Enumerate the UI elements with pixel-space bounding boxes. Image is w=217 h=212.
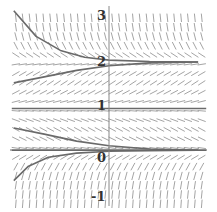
slope-segment (119, 190, 120, 198)
slope-segment (49, 172, 51, 180)
slope-segment (200, 42, 204, 50)
slope-segment (33, 81, 40, 86)
slope-segment (36, 200, 37, 208)
slope-segment (12, 119, 20, 122)
slope-segment (153, 190, 154, 198)
slope-segment (57, 14, 58, 22)
slope-segment (22, 23, 23, 31)
slope-segment (53, 119, 61, 122)
slope-segment (14, 42, 18, 50)
slope-segment (74, 155, 81, 159)
slope-segment (33, 155, 40, 159)
slope-segment (166, 172, 168, 180)
slope-segment (84, 190, 85, 198)
slope-segment (74, 81, 81, 86)
slope-segment (116, 53, 123, 58)
slope-segment (198, 155, 205, 159)
slope-segment (19, 137, 27, 141)
slope-segment (14, 163, 18, 170)
slope-segment (74, 127, 81, 131)
slope-segment (136, 81, 143, 86)
slope-segment (91, 14, 92, 22)
slope-segment (153, 200, 154, 208)
slope-segment (50, 14, 51, 22)
slope-segment (146, 32, 148, 40)
slope-segment (88, 127, 95, 131)
slope-segment (88, 53, 95, 58)
slope-segment (91, 32, 93, 40)
slope-segment (181, 14, 182, 22)
slope-segment (26, 90, 33, 94)
slope-segment (136, 127, 143, 131)
slope-segment (126, 14, 127, 22)
slope-segment (166, 32, 168, 40)
slope-segment (67, 81, 74, 86)
slope-segment (139, 14, 140, 22)
slope-segment (174, 200, 175, 208)
slope-segment (198, 81, 205, 86)
slope-segment (125, 172, 127, 180)
slope-segment (160, 200, 161, 208)
slope-segment (126, 200, 127, 208)
slope-segment (132, 23, 133, 31)
slope-segment (157, 155, 164, 159)
slope-segment (112, 23, 113, 31)
slope-segment (36, 23, 37, 31)
slope-segment (146, 14, 147, 22)
slope-segment (198, 72, 205, 76)
slope-segment (77, 32, 79, 40)
slope-segment (116, 81, 123, 86)
slope-segment (50, 200, 51, 208)
slope-segment (21, 163, 25, 170)
slope-segment (29, 200, 30, 208)
slope-segment (167, 200, 168, 208)
slope-segment (146, 172, 148, 180)
slope-segment (125, 32, 127, 40)
slope-segment (184, 155, 191, 159)
slope-segment (179, 163, 183, 170)
slope-segment (88, 81, 95, 86)
slope-segment (177, 90, 184, 94)
slope-segment (201, 14, 202, 22)
slope-segment (26, 81, 33, 86)
slope-segment (118, 172, 120, 180)
slope-segment (69, 163, 73, 170)
slope-segment (97, 172, 99, 180)
slope-segment (129, 155, 136, 159)
slope-segment (191, 53, 198, 58)
slope-segment (63, 23, 64, 31)
slope-segment (194, 181, 195, 189)
slope-segment (67, 155, 74, 159)
slope-segment (90, 42, 94, 50)
slope-segment (35, 42, 39, 50)
slope-segment (171, 72, 178, 76)
slope-segment (133, 200, 134, 208)
slope-segment (84, 32, 86, 40)
slope-segment (177, 127, 184, 131)
slope-segment (36, 14, 37, 22)
slope-segment (200, 163, 204, 170)
slope-segment (50, 190, 51, 198)
slope-segment (42, 172, 44, 180)
slope-segment (191, 81, 198, 86)
slope-segment (164, 81, 171, 86)
slope-segment (178, 155, 185, 159)
slope-segment (40, 127, 47, 131)
slope-segment (71, 190, 72, 198)
slope-segment (124, 163, 128, 170)
slope-segment (95, 81, 102, 86)
slope-segment (132, 190, 133, 198)
slope-segment (26, 53, 33, 58)
slope-segment (159, 172, 161, 180)
slope-segment (150, 119, 158, 122)
slope-segment (181, 200, 182, 208)
slope-segment (201, 190, 202, 198)
slope-segment (91, 172, 93, 180)
slope-segment (35, 172, 37, 180)
slope-segment (177, 72, 184, 76)
slope-segment (187, 172, 189, 180)
slope-segment (110, 163, 114, 170)
slope-segment (181, 190, 182, 198)
slope-segment (63, 172, 65, 180)
slope-segment (165, 163, 169, 170)
